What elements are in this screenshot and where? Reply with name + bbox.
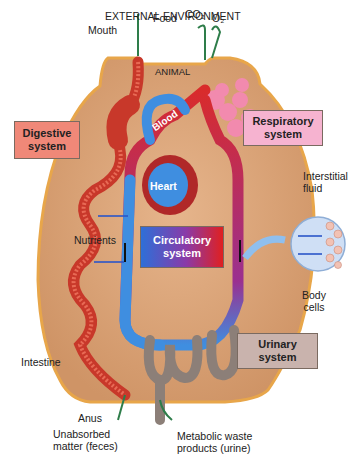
body-cells-label: Bodycells: [302, 289, 326, 313]
anus-label: Anus: [78, 412, 102, 424]
animal-label: ANIMAL: [155, 66, 190, 78]
intestine-label: Intestine: [21, 356, 61, 368]
respiratory-system-box: Respiratorysystem: [243, 110, 323, 146]
digestive-system-box: Digestivesystem: [14, 121, 80, 159]
food-label: Food: [153, 12, 177, 24]
nutrients-label: Nutrients: [74, 234, 116, 246]
mouth-label: Mouth: [88, 24, 117, 36]
urine-label: Metabolic wasteproducts (urine): [177, 430, 252, 454]
circulatory-system-box: Circulatorysystem: [140, 226, 224, 268]
heart-label: Heart: [150, 180, 177, 192]
interstitial-fluid-label: Interstitialfluid: [303, 170, 348, 194]
o2-label: O₂: [212, 12, 224, 24]
body-systems-diagram: EXTERNAL ENVIRONMENT Food CO₂ O₂ Mouth A…: [0, 0, 363, 464]
co2-label: CO₂: [185, 8, 205, 20]
feces-label: Unabsorbedmatter (feces): [53, 428, 118, 452]
urinary-system-box: Urinarysystem: [237, 333, 318, 369]
